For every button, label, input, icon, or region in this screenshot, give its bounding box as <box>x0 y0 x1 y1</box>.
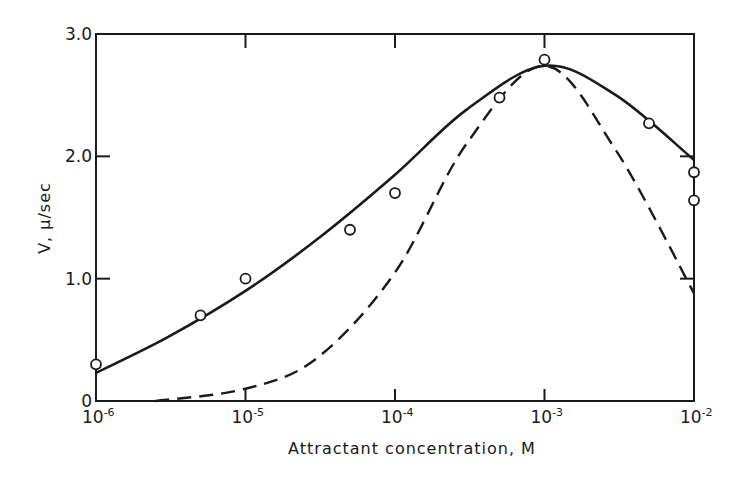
data-point-circle-icon <box>540 55 550 65</box>
curves <box>96 66 694 401</box>
data-point-circle-icon <box>494 93 504 103</box>
x-tick-label: 10-3 <box>531 406 564 427</box>
data-point-circle-icon <box>345 225 355 235</box>
y-tick-label: 2.0 <box>65 146 92 166</box>
data-point-circle-icon <box>644 118 654 128</box>
data-point-circle-icon <box>195 310 205 320</box>
data-point-circle-icon <box>689 195 699 205</box>
x-tick-label: 10-2 <box>680 406 713 427</box>
data-point-circle-icon <box>91 359 101 369</box>
x-tick-label: 10-4 <box>381 406 414 427</box>
data-point-circle-icon <box>241 274 251 284</box>
x-tick-label: 10-5 <box>232 406 265 427</box>
x-tick-labels: 10-610-510-410-310-2 <box>82 406 713 427</box>
chart: 01.02.03.0 10-610-510-410-310-2 Attracta… <box>0 0 752 479</box>
x-tick-label: 10-6 <box>82 406 115 427</box>
dashed-curve <box>155 66 694 401</box>
data-point-circle-icon <box>689 167 699 177</box>
data-point-circle-icon <box>390 188 400 198</box>
y-axis-title: V, μ/sec <box>35 182 54 254</box>
solid-curve <box>96 66 694 373</box>
y-tick-label: 3.0 <box>65 24 92 44</box>
y-tick-labels: 01.02.03.0 <box>65 24 92 411</box>
y-tick-label: 1.0 <box>65 269 92 289</box>
x-axis-title: Attractant concentration, M <box>288 439 536 458</box>
data-markers <box>91 55 699 370</box>
